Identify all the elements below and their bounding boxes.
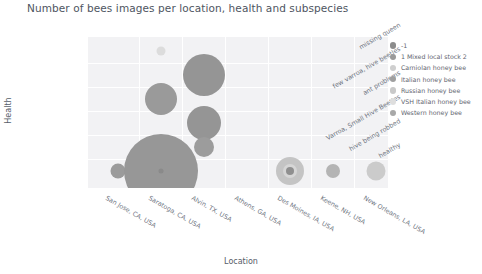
legend-item[interactable]: -1 [390, 40, 482, 51]
legend-item[interactable]: Western honey bee [390, 107, 482, 118]
legend-item-label: 1 Mixed local stock 2 [401, 53, 467, 60]
legend-swatch-circle-icon [390, 54, 396, 60]
bubble-marker[interactable] [145, 83, 177, 115]
legend-swatch-circle-icon [390, 76, 396, 82]
legend-item[interactable]: Carniolan honey bee [390, 62, 482, 73]
legend: -11 Mixed local stock 2Carniolan honey b… [390, 40, 482, 118]
legend-item-label: Italian honey bee [401, 76, 456, 83]
legend-item-label: Russian honey bee [401, 87, 460, 94]
legend-item-label: -1 [401, 42, 407, 49]
legend-swatch-circle-icon [390, 110, 396, 116]
legend-item[interactable]: Russian honey bee [390, 85, 482, 96]
legend-item-label: VSH Italian honey bee [401, 98, 471, 105]
legend-swatch-circle-icon [390, 42, 396, 48]
legend-item[interactable]: VSH Italian honey bee [390, 96, 482, 107]
x-tick-label: New Orleans, LA, USA [362, 194, 427, 236]
legend-swatch-circle-icon [390, 98, 396, 104]
gridline-vertical [225, 37, 226, 188]
bubble-marker[interactable] [159, 169, 164, 174]
chart-title: Number of bees images per location, heal… [27, 2, 348, 14]
legend-item-label: Western honey bee [401, 109, 462, 116]
x-axis-title: Location [0, 257, 482, 266]
bubble-chart: Number of bees images per location, heal… [0, 0, 482, 274]
bubble-marker[interactable] [183, 54, 225, 96]
legend-item[interactable]: 1 Mixed local stock 2 [390, 51, 482, 62]
bubble-marker[interactable] [286, 167, 294, 175]
legend-item-label: Carniolan honey bee [401, 64, 466, 71]
legend-item[interactable]: Italian honey bee [390, 74, 482, 85]
gridline-horizontal [88, 63, 388, 64]
legend-swatch-circle-icon [390, 65, 396, 71]
bubble-marker[interactable] [157, 47, 166, 56]
y-axis-title: Health [4, 86, 13, 136]
gridline-horizontal [88, 87, 388, 88]
gridline-vertical [268, 37, 269, 188]
legend-swatch-circle-icon [390, 87, 396, 93]
